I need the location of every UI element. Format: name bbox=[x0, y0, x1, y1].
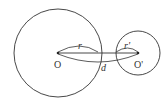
two-circles-diagram: r r' O O' d bbox=[0, 0, 166, 106]
distance-d-arc bbox=[58, 54, 138, 62]
center-point-o-prime bbox=[137, 52, 140, 55]
center-point-o bbox=[57, 52, 60, 55]
distance-d-label: d bbox=[101, 62, 107, 73]
radius-r-prime-label: r' bbox=[124, 40, 131, 51]
radius-r-label: r bbox=[78, 40, 82, 51]
center-o-label: O bbox=[54, 59, 61, 70]
center-o-prime-label: O' bbox=[134, 59, 143, 70]
